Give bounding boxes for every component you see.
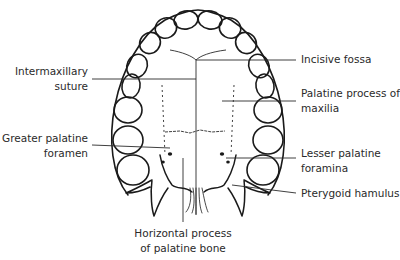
label-greater-palatine-foramen: Greater palatine foramen: [2, 131, 88, 161]
greater-palatine-foramen-left: [168, 152, 172, 156]
posterior-palate-left: [160, 155, 192, 192]
posterior-palate-right: [204, 155, 236, 192]
label-intermaxillary-suture: Intermaxillary suture: [2, 64, 88, 94]
greater-palatine-foramen-right: [220, 152, 224, 156]
transverse-palatine-suture: [165, 130, 225, 133]
label-palatine-process: Palatine process of maxilia: [301, 86, 400, 116]
label-lesser-palatine-foramina: Lesser palatine foramina: [301, 146, 381, 176]
palate-inner-left: [162, 85, 165, 155]
lesser-palatine-foramen-right: [226, 161, 230, 164]
leader-pterygoid: [232, 185, 296, 193]
foramina: [161, 152, 230, 163]
label-incisive-fossa: Incisive fossa: [301, 52, 371, 67]
dental-arch-outline: [112, 10, 285, 195]
label-pterygoid-hamulus: Pterygoid hamulus: [301, 186, 399, 201]
teeth-right: [197, 9, 283, 185]
palate-inner-right: [231, 85, 234, 155]
lesser-palatine-foramen-left: [161, 161, 165, 164]
incisive-ridge: [170, 50, 226, 60]
leader-greater-palatine: [92, 145, 170, 148]
label-horizontal-process: Horizontal process of palatine bone: [123, 226, 243, 256]
teeth-left: [113, 9, 199, 185]
